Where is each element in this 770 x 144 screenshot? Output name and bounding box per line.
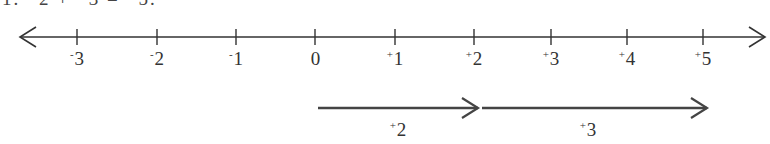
digit: 0 bbox=[311, 48, 321, 69]
sign: - bbox=[229, 48, 233, 60]
tick-label-neg-2: -2 bbox=[150, 48, 164, 70]
tick-label-pos-5: +5 bbox=[695, 48, 712, 70]
digit: 2 bbox=[397, 119, 407, 140]
jump-arrow-plus-3 bbox=[482, 98, 707, 118]
digit: 5 bbox=[702, 48, 712, 69]
number-line-diagram bbox=[0, 0, 770, 144]
jump-label-plus-2: +2 bbox=[390, 119, 407, 141]
sign: + bbox=[619, 48, 625, 60]
digit: 3 bbox=[550, 48, 560, 69]
sign: + bbox=[695, 48, 701, 60]
tick-label-zero: 0 bbox=[310, 48, 321, 70]
sign: - bbox=[150, 48, 154, 60]
tick-label-neg-1: -1 bbox=[229, 48, 243, 70]
tick-label-pos-4: +4 bbox=[619, 48, 636, 70]
digit: 3 bbox=[75, 48, 85, 69]
tick-label-pos-3: +3 bbox=[543, 48, 560, 70]
tick-label-pos-2: +2 bbox=[466, 48, 483, 70]
digit: 1 bbox=[234, 48, 244, 69]
tick-label-pos-1: +1 bbox=[387, 48, 404, 70]
digit: 4 bbox=[626, 48, 636, 69]
tick-label-neg-3: -3 bbox=[70, 48, 84, 70]
sign: + bbox=[580, 119, 586, 131]
sign: + bbox=[543, 48, 549, 60]
digit: 1 bbox=[394, 48, 404, 69]
jump-label-plus-3: +3 bbox=[580, 119, 597, 141]
sign: - bbox=[70, 48, 74, 60]
digit: 2 bbox=[473, 48, 483, 69]
jump-arrow-plus-2 bbox=[318, 98, 478, 118]
sign: + bbox=[466, 48, 472, 60]
sign: + bbox=[390, 119, 396, 131]
digit: 2 bbox=[155, 48, 165, 69]
digit: 3 bbox=[587, 119, 597, 140]
sign: + bbox=[387, 48, 393, 60]
